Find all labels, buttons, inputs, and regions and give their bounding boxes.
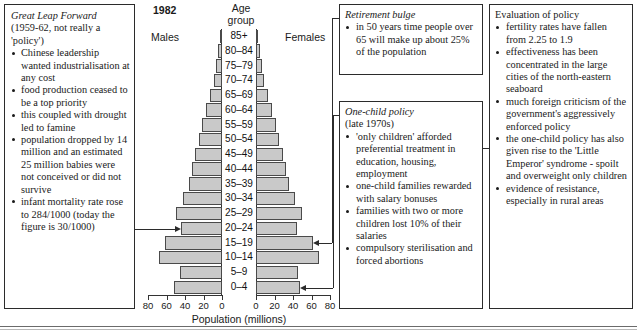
pyramid-row-female-half — [256, 59, 338, 74]
bullet-dot-icon — [346, 247, 349, 250]
list-item: evidence of resistance, especially in ru… — [495, 183, 627, 208]
pyramid-row: 10–14 — [140, 250, 338, 265]
pyramid-row: 80–84 — [140, 44, 338, 59]
bar-male — [192, 162, 222, 175]
pyramid-row: 25–29 — [140, 206, 338, 221]
pyramid-row-male-half — [140, 103, 222, 118]
pyramid-row: 75–79 — [140, 59, 338, 74]
list-item: this coupled with drought led to famine — [11, 109, 130, 134]
pyramid-row-female-half — [256, 147, 338, 162]
bullet-dot-icon — [496, 51, 499, 54]
bullet-dot-icon — [346, 26, 349, 29]
great-leap-forward-subtitle: (1959-62, not really a 'policy') — [11, 22, 130, 47]
pyramid-row: 45–49 — [140, 147, 338, 162]
pyramid-row-female-half — [256, 250, 338, 265]
pyramid-row-female-half — [256, 73, 338, 88]
retirement-bulge-bullets: in 50 years time people over 65 will mak… — [345, 21, 477, 58]
bar-male — [214, 74, 222, 87]
bar-male — [206, 103, 222, 116]
bar-female — [256, 177, 289, 190]
chart-year-label: 1982 — [153, 4, 176, 16]
age-group-label: 60–64 — [222, 103, 256, 118]
list-item-text: the one-child policy has also given rise… — [506, 133, 627, 181]
pyramid-row: 85+ — [140, 29, 338, 44]
list-item-text: evidence of resistance, especially in ru… — [506, 183, 603, 206]
pyramid-row-female-half — [256, 44, 338, 59]
great-leap-forward-box: Great Leap Forward (1959-62, not really … — [4, 4, 135, 309]
bar-female — [256, 162, 286, 175]
list-item: the one-child policy has also given rise… — [495, 133, 627, 183]
pyramid-row: 60–64 — [140, 103, 338, 118]
bullet-dot-icon — [496, 137, 499, 140]
list-item-text: one-child families rewarded with salary … — [356, 180, 472, 203]
bullet-dot-icon — [346, 135, 349, 138]
connector-onechild-vert — [333, 115, 334, 288]
pyramid-row-male-half — [140, 280, 222, 295]
pyramid-row-female-half — [256, 191, 338, 206]
one-child-policy-subtitle: (late 1970s) — [345, 118, 477, 130]
age-group-label: 30–34 — [222, 191, 256, 206]
bullet-dot-icon — [346, 185, 349, 188]
pyramid-row-male-half — [140, 29, 222, 44]
retirement-bulge-box: Retirement bulge in 50 years time people… — [339, 4, 483, 75]
bar-male — [199, 133, 222, 146]
axis-tick-label: 0 — [219, 300, 224, 311]
bullet-dot-icon — [12, 52, 15, 55]
pyramid-row-male-half — [140, 206, 222, 221]
pyramid-row-female-half — [256, 221, 338, 236]
chart-x-axes: 806040200 020406080 Population (millions… — [140, 295, 338, 330]
pyramid-row: 50–54 — [140, 132, 338, 147]
pyramid-row-male-half — [140, 250, 222, 265]
bar-female — [256, 74, 264, 87]
axis-tick — [312, 295, 313, 300]
bar-female — [256, 251, 319, 264]
bar-male — [174, 281, 222, 294]
list-item: in 50 years time people over 65 will mak… — [345, 21, 477, 58]
one-child-policy-box: One-child policy (late 1970s) 'only chil… — [339, 101, 483, 309]
list-item: much foreign criticism of the government… — [495, 96, 627, 133]
bar-female — [256, 266, 298, 279]
pyramid-row-male-half — [140, 59, 222, 74]
list-item: food production ceased to be a top prior… — [11, 84, 130, 109]
pyramid-row: 30–34 — [140, 191, 338, 206]
axis-tick — [148, 295, 149, 300]
list-item-text: infant mortality rate rose to 284/1000 (… — [21, 196, 123, 232]
bar-female — [256, 192, 295, 205]
bar-female — [256, 236, 313, 249]
age-group-label: 65–69 — [222, 88, 256, 103]
bar-female — [256, 148, 283, 161]
pyramid-row-male-half — [140, 132, 222, 147]
bullet-dot-icon — [496, 187, 499, 190]
diagram-page: Great Leap Forward (1959-62, not really … — [0, 0, 637, 330]
pyramid-row: 15–19 — [140, 236, 338, 251]
pyramid-row-male-half — [140, 88, 222, 103]
bullet-dot-icon — [12, 114, 15, 117]
bar-female — [256, 118, 276, 131]
connector-evaluation-stub — [483, 148, 489, 149]
axis-tick-label: 0 — [253, 300, 258, 311]
pyramid-row-female-half — [256, 29, 338, 44]
retirement-bulge-title: Retirement bulge — [345, 9, 477, 21]
evaluation-bullets: fertility rates have fallen from 2.25 to… — [495, 21, 627, 207]
bullet-dot-icon — [496, 26, 499, 29]
great-leap-forward-title: Great Leap Forward — [11, 10, 130, 22]
list-item: infant mortality rate rose to 284/1000 (… — [11, 196, 130, 233]
bar-female — [256, 133, 279, 146]
list-item: compulsory sterilisation and forced abor… — [345, 242, 477, 267]
evaluation-of-policy-box: Evaluation of policy fertility rates hav… — [489, 4, 633, 309]
bullet-dot-icon — [12, 138, 15, 141]
pyramid-row: 55–59 — [140, 118, 338, 133]
age-group-label: 50–54 — [222, 132, 256, 147]
list-item-text: food production ceased to be a top prior… — [21, 84, 128, 107]
bar-female — [256, 30, 258, 43]
connector-retirement-stub — [332, 18, 339, 19]
bar-male — [195, 148, 222, 161]
pyramid-row-male-half — [140, 147, 222, 162]
list-item: one-child families rewarded with salary … — [345, 180, 477, 205]
pyramid-row-female-half — [256, 103, 338, 118]
bar-male — [202, 118, 222, 131]
bar-male — [165, 236, 222, 249]
pyramid-row-male-half — [140, 44, 222, 59]
bar-female — [256, 89, 268, 102]
pyramid-row: 5–9 — [140, 265, 338, 280]
